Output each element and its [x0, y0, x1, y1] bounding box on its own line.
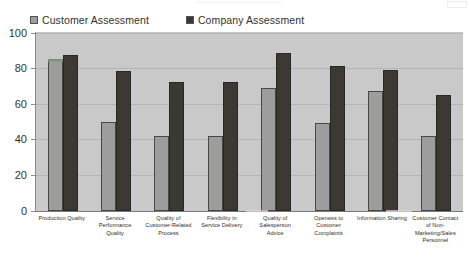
- bar-customer: [421, 136, 436, 211]
- bar-customer: [368, 91, 383, 211]
- customer-swatch-icon: [30, 16, 38, 24]
- bar-company: [383, 70, 398, 211]
- plot-wrapper: 100 80 60 40 20 0: [0, 28, 469, 214]
- x-axis-label: Quality ofSalespersonAdvice: [249, 215, 302, 261]
- x-axis-label-line: Complaints: [303, 230, 354, 237]
- x-axis-label: Quality ofCustomer-RelatedProcess: [142, 215, 195, 261]
- x-axis-label-line: Quality of: [250, 215, 301, 222]
- bar-group: [410, 32, 463, 211]
- x-axis-labels: Production QualityServicePerformanceQual…: [35, 215, 462, 261]
- scan-artifact: [196, 1, 282, 4]
- bar-customer: [154, 136, 169, 211]
- bar-group: [250, 32, 303, 211]
- x-axis-label-line: Openess to: [303, 215, 354, 222]
- bar-group: [303, 32, 356, 211]
- bar-customer: [101, 122, 116, 212]
- plot-area: [35, 32, 463, 212]
- bar-customer: [261, 88, 276, 212]
- x-axis-label: Production Quality: [35, 215, 88, 261]
- x-axis-label-line: Advice: [250, 230, 301, 237]
- y-tick-label: 100: [9, 27, 27, 39]
- bar-series-container: [36, 32, 463, 211]
- bar-company: [330, 66, 345, 211]
- x-axis-label-line: of Non-: [410, 222, 461, 229]
- bar-customer: [208, 136, 223, 211]
- bar-group: [36, 32, 89, 211]
- x-axis-label: Flexibility inService Delivery: [195, 215, 248, 261]
- bar-group: [356, 32, 409, 211]
- legend-label: Company Assessment: [198, 14, 304, 26]
- legend-item-company-assessment: Company Assessment: [186, 12, 304, 28]
- bar-customer: [48, 59, 63, 211]
- bar-company: [223, 82, 238, 211]
- x-axis-label-line: Information Sharing: [356, 215, 407, 222]
- x-axis-label: ServicePerformanceQuality: [88, 215, 141, 261]
- y-tick-label: 0: [21, 205, 27, 217]
- x-axis-label-line: Marketing/Sales: [410, 230, 461, 237]
- x-axis-label-line: Customer Contact: [410, 215, 461, 222]
- x-axis-label: Openess toCustomerComplaints: [302, 215, 355, 261]
- bar-company: [63, 55, 78, 211]
- bar-group: [89, 32, 142, 211]
- company-swatch-icon: [186, 16, 194, 24]
- y-tick-label: 80: [15, 62, 27, 74]
- x-axis-label-line: Personnel: [410, 237, 461, 244]
- x-axis-label-line: Quality of: [143, 215, 194, 222]
- chart-legend: Customer Assessment Company Assessment: [30, 12, 450, 28]
- bar-company: [276, 53, 291, 211]
- bar-company: [436, 95, 451, 211]
- legend-item-customer-assessment: Customer Assessment: [30, 12, 149, 28]
- legend-label: Customer Assessment: [42, 14, 149, 26]
- x-axis-label: Customer Contactof Non-Marketing/SalesPe…: [409, 215, 462, 261]
- bar-company: [116, 71, 131, 211]
- x-axis-label-line: Quality: [89, 230, 140, 237]
- scan-speck: [246, 210, 268, 212]
- scan-artifact: [447, 1, 467, 8]
- x-axis-label-line: Customer-Related: [143, 222, 194, 229]
- bar-group: [143, 32, 196, 211]
- x-axis-label-line: Flexibility in: [196, 215, 247, 222]
- x-axis-label-line: Salesperson: [250, 222, 301, 229]
- y-axis: 100 80 60 40 20 0: [0, 28, 30, 214]
- scan-speck: [386, 210, 412, 212]
- x-axis-label-line: Customer: [303, 222, 354, 229]
- y-tick-label: 60: [15, 98, 27, 110]
- bar-chart: Customer Assessment Company Assessment 1…: [0, 0, 469, 261]
- x-axis-label-line: Process: [143, 230, 194, 237]
- bar-group: [196, 32, 249, 211]
- bar-customer: [315, 123, 330, 211]
- bar-company: [169, 82, 184, 211]
- y-tick-label: 40: [15, 133, 27, 145]
- x-axis-label-line: Service Delivery: [196, 222, 247, 229]
- x-axis-label-line: Service: [89, 215, 140, 222]
- y-tick-label: 20: [15, 169, 27, 181]
- x-axis-label: Information Sharing: [355, 215, 408, 261]
- x-axis-label-line: Performance: [89, 222, 140, 229]
- x-axis-label-line: Production Quality: [36, 215, 87, 222]
